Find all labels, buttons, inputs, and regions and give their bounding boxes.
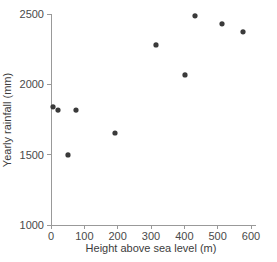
data-point: [112, 130, 117, 135]
data-point: [240, 29, 245, 34]
y-tick-label: 2500: [20, 8, 44, 20]
x-tick-label: 600: [242, 230, 260, 242]
x-tick-label: 100: [75, 230, 93, 242]
x-tick-label: 200: [108, 230, 126, 242]
y-tick-label: 1000: [20, 219, 44, 231]
data-point: [192, 13, 197, 18]
data-point: [182, 72, 187, 77]
data-point: [50, 104, 55, 109]
y-axis-ticks: 1000150020002500: [20, 8, 51, 231]
data-point: [219, 21, 224, 26]
x-tick-label: 500: [208, 230, 226, 242]
data-point: [73, 107, 78, 112]
y-axis-title: Yearly rainfall (mm): [1, 73, 13, 167]
data-points: [50, 13, 245, 157]
x-tick-label: 300: [142, 230, 160, 242]
y-tick-label: 2000: [20, 78, 44, 90]
y-tick-label: 1500: [20, 149, 44, 161]
x-axis-title: Height above sea level (m): [86, 242, 217, 254]
x-tick-label: 0: [48, 230, 54, 242]
scatter-chart: 1000150020002500 0100200300400500600 Hei…: [0, 0, 277, 262]
plot-area: 1000150020002500 0100200300400500600 Hei…: [0, 0, 277, 262]
x-tick-label: 400: [175, 230, 193, 242]
data-point: [55, 107, 60, 112]
x-axis-ticks: 0100200300400500600: [48, 225, 260, 242]
data-point: [153, 42, 158, 47]
data-point: [65, 152, 70, 157]
